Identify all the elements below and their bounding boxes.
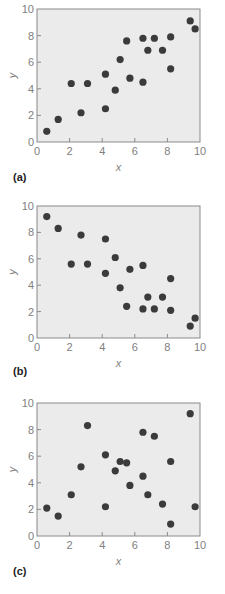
panel-label-a: (a) <box>13 171 26 183</box>
data-point <box>123 303 130 310</box>
scatter-chart-a: 02468100246810xy (a) <box>0 0 225 198</box>
data-point <box>102 270 109 277</box>
data-point <box>167 33 174 40</box>
x-axis-title: x <box>115 555 122 567</box>
y-tick-label: 0 <box>28 530 34 542</box>
y-tick-label: 6 <box>28 56 34 68</box>
data-point <box>123 459 130 466</box>
data-point <box>192 503 199 510</box>
y-tick-label: 8 <box>28 30 34 42</box>
data-point <box>159 500 166 507</box>
data-point <box>192 315 199 322</box>
data-point <box>167 307 174 314</box>
plot-area <box>37 206 200 338</box>
data-point <box>77 463 84 470</box>
data-point <box>55 512 62 519</box>
scatter-chart-b: 02468100246810xy (b) <box>0 197 225 395</box>
data-point <box>144 47 151 54</box>
data-point <box>187 323 194 330</box>
panel-label-b: (b) <box>13 365 27 377</box>
data-point <box>139 35 146 42</box>
data-point <box>112 254 119 261</box>
chart-a-plot: 02468100246810xy <box>0 0 225 198</box>
x-axis-title: x <box>115 357 122 369</box>
y-tick-label: 4 <box>28 83 34 95</box>
data-point <box>126 266 133 273</box>
scatter-chart-c: 02468100246810xy (c) <box>0 394 225 592</box>
data-point <box>112 467 119 474</box>
data-point <box>43 128 50 135</box>
data-point <box>102 503 109 510</box>
data-point <box>159 47 166 54</box>
y-tick-label: 6 <box>28 253 34 265</box>
data-point <box>167 65 174 72</box>
y-tick-label: 10 <box>22 397 34 409</box>
data-point <box>68 491 75 498</box>
y-tick-label: 2 <box>28 503 34 515</box>
data-point <box>102 451 109 458</box>
x-tick-label: 0 <box>34 341 40 353</box>
data-point <box>167 275 174 282</box>
y-tick-label: 0 <box>28 332 34 344</box>
x-tick-label: 2 <box>67 539 73 551</box>
x-tick-label: 8 <box>164 145 170 157</box>
x-tick-label: 0 <box>34 145 40 157</box>
data-point <box>151 305 158 312</box>
x-tick-label: 10 <box>194 145 206 157</box>
y-tick-label: 8 <box>28 226 34 238</box>
x-tick-label: 2 <box>67 341 73 353</box>
chart-c-plot: 02468100246810xy <box>0 394 225 592</box>
data-point <box>112 87 119 94</box>
data-point <box>139 429 146 436</box>
data-point <box>68 80 75 87</box>
chart-b-plot: 02468100246810xy <box>0 197 225 395</box>
data-point <box>43 504 50 511</box>
y-tick-label: 4 <box>28 477 34 489</box>
y-tick-label: 8 <box>28 424 34 436</box>
y-tick-label: 4 <box>28 279 34 291</box>
y-tick-label: 10 <box>22 200 34 212</box>
y-axis-title: y <box>6 71 18 79</box>
data-point <box>102 105 109 112</box>
data-point <box>187 410 194 417</box>
data-point <box>151 433 158 440</box>
data-point <box>77 109 84 116</box>
data-point <box>102 71 109 78</box>
data-point <box>139 305 146 312</box>
data-point <box>117 284 124 291</box>
data-point <box>55 116 62 123</box>
y-tick-label: 2 <box>28 109 34 121</box>
data-point <box>84 422 91 429</box>
data-point <box>159 293 166 300</box>
data-point <box>167 520 174 527</box>
panel-label-c: (c) <box>13 565 26 577</box>
x-tick-label: 10 <box>194 539 206 551</box>
y-tick-label: 10 <box>22 3 34 15</box>
data-point <box>84 260 91 267</box>
data-point <box>187 17 194 24</box>
data-point <box>126 482 133 489</box>
data-point <box>43 213 50 220</box>
data-point <box>117 458 124 465</box>
y-tick-label: 2 <box>28 306 34 318</box>
data-point <box>102 235 109 242</box>
y-tick-label: 6 <box>28 450 34 462</box>
x-tick-label: 4 <box>99 145 105 157</box>
x-tick-label: 6 <box>132 145 138 157</box>
data-point <box>123 37 130 44</box>
x-tick-label: 8 <box>164 341 170 353</box>
data-point <box>139 79 146 86</box>
data-point <box>117 56 124 63</box>
x-tick-label: 8 <box>164 539 170 551</box>
data-point <box>144 491 151 498</box>
data-point <box>68 260 75 267</box>
x-tick-label: 6 <box>132 341 138 353</box>
x-tick-label: 0 <box>34 539 40 551</box>
y-tick-label: 0 <box>28 136 34 148</box>
data-point <box>151 35 158 42</box>
data-point <box>84 80 91 87</box>
data-point <box>192 25 199 32</box>
x-tick-label: 10 <box>194 341 206 353</box>
data-point <box>139 473 146 480</box>
data-point <box>126 75 133 82</box>
